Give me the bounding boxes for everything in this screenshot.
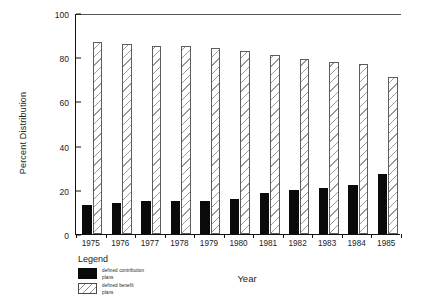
y-tick: 60 <box>76 102 81 103</box>
bar-defined-benefit <box>329 62 339 234</box>
bar-group <box>283 14 313 234</box>
legend: Legend defined contribution plans define… <box>78 254 228 299</box>
bar-defined-benefit <box>270 55 280 234</box>
bar-defined-contribution <box>289 190 299 234</box>
bar-group <box>76 14 106 234</box>
legend-title: Legend <box>78 254 228 264</box>
x-tick <box>135 234 136 238</box>
bar-defined-benefit <box>181 46 191 234</box>
legend-label-defined-benefit: defined benefit plans <box>102 283 134 296</box>
legend-label-defined-contribution: defined contribution plans <box>102 268 144 281</box>
bar-group <box>165 14 195 234</box>
x-tick <box>342 234 343 238</box>
bar-defined-contribution <box>141 201 151 234</box>
y-tick: 40 <box>76 146 81 147</box>
plot-area: 020406080100 197519761977197819791980198… <box>75 14 400 235</box>
y-tick-label: 80 <box>60 55 69 64</box>
x-tick-label: 1982 <box>288 240 306 248</box>
bars-layer <box>76 14 400 234</box>
legend-label-line1: defined contribution <box>102 268 144 273</box>
bar-group <box>224 14 254 234</box>
bar-defined-benefit <box>388 77 398 234</box>
x-tick-label: 1984 <box>348 240 366 248</box>
bar-group <box>194 14 224 234</box>
bar-defined-contribution <box>171 201 181 234</box>
legend-item-defined-contribution: defined contribution plans <box>78 268 228 281</box>
bar-defined-benefit <box>240 51 250 234</box>
bar-chart: Percent Distribution 020406080100 197519… <box>0 0 424 305</box>
bar-group <box>106 14 136 234</box>
y-tick-label: 60 <box>60 99 69 108</box>
bar-group <box>135 14 165 234</box>
x-tick <box>371 234 372 238</box>
bar-defined-benefit <box>122 44 132 234</box>
x-tick-label: 1977 <box>141 240 159 248</box>
y-tick-label: 40 <box>60 143 69 152</box>
x-tick-label: 1980 <box>229 240 247 248</box>
y-tick-label: 100 <box>55 11 69 20</box>
x-tick <box>224 234 225 238</box>
legend-swatch-defined-benefit <box>78 283 97 294</box>
x-tick <box>253 234 254 238</box>
y-axis-title: Percent Distribution <box>18 58 28 208</box>
x-tick <box>283 234 284 238</box>
bar-defined-contribution <box>260 193 270 234</box>
y-tick-label: 0 <box>64 232 69 241</box>
x-tick-label: 1981 <box>259 240 277 248</box>
legend-label-line1: defined benefit <box>102 283 134 288</box>
x-tick <box>401 234 402 238</box>
legend-label-line2: plans <box>102 275 144 282</box>
bar-defined-contribution <box>348 185 358 234</box>
legend-item-defined-benefit: defined benefit plans <box>78 283 228 296</box>
bar-group <box>371 14 401 234</box>
bar-defined-benefit <box>152 46 162 234</box>
x-tick-label: 1985 <box>377 240 395 248</box>
x-tick <box>165 234 166 238</box>
y-tick: 100 <box>76 14 81 15</box>
bar-defined-contribution <box>230 199 240 234</box>
bar-defined-contribution <box>378 174 388 234</box>
bar-defined-contribution <box>82 205 92 234</box>
y-tick: 80 <box>76 58 81 59</box>
x-tick-label: 1983 <box>318 240 336 248</box>
bar-defined-benefit <box>300 59 310 234</box>
x-tick-label: 1975 <box>82 240 100 248</box>
bar-defined-contribution <box>200 201 210 234</box>
x-axis-title-text: Year <box>237 273 256 284</box>
x-tick <box>106 234 107 238</box>
bar-group <box>253 14 283 234</box>
bar-group <box>312 14 342 234</box>
x-tick-label: 1976 <box>111 240 129 248</box>
x-tick-label: 1979 <box>200 240 218 248</box>
x-tick-label: 1978 <box>170 240 188 248</box>
bar-defined-benefit <box>211 48 221 234</box>
bar-defined-contribution <box>112 203 122 234</box>
y-tick: 20 <box>76 190 81 191</box>
y-tick-label: 20 <box>60 187 69 196</box>
bar-defined-benefit <box>359 64 369 234</box>
legend-label-line2: plans <box>102 290 134 297</box>
bar-defined-benefit <box>93 42 103 234</box>
x-tick <box>76 234 77 238</box>
legend-swatch-defined-contribution <box>78 268 97 279</box>
x-tick <box>312 234 313 238</box>
bar-group <box>342 14 372 234</box>
bar-defined-contribution <box>319 188 329 234</box>
x-tick <box>194 234 195 238</box>
